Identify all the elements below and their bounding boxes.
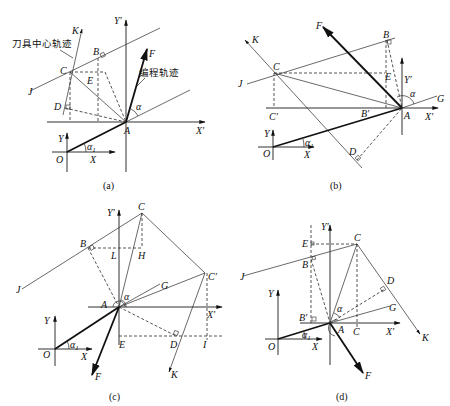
dash-ea xyxy=(105,72,126,122)
right-angle-d xyxy=(380,286,386,292)
label-x-prime: X′ xyxy=(195,125,205,136)
right-angle-e xyxy=(311,242,314,245)
right-angle-b-prime xyxy=(312,317,316,321)
label-c: C xyxy=(60,65,67,76)
segment-ac xyxy=(330,244,357,323)
label-f: F xyxy=(364,370,372,381)
label-d: D xyxy=(386,275,395,286)
label-x-prime: X′ xyxy=(424,111,434,122)
alpha1-arc xyxy=(84,143,86,152)
dash-ba xyxy=(311,259,330,323)
line-k xyxy=(169,273,205,372)
figure-a: K C B E D J F α A X′ Y′ Y O X α1 刀具中心轨迹 … xyxy=(12,15,205,192)
label-b: B xyxy=(383,29,389,40)
label-k: K xyxy=(421,332,430,343)
label-y-prime: Y′ xyxy=(107,207,116,218)
label-f: F xyxy=(148,48,156,59)
label-j: J xyxy=(16,284,21,295)
caption-a: (a) xyxy=(103,180,114,192)
segment-ca xyxy=(274,73,402,108)
label-alpha1: α1 xyxy=(302,329,311,342)
label-o: O xyxy=(43,349,50,360)
label-alpha1: α1 xyxy=(70,339,79,352)
label-o: O xyxy=(263,148,270,159)
figure-c: C Y′ B L H C′ G J α A X′ Y E D I O X α1 … xyxy=(16,201,222,403)
label-f: F xyxy=(315,20,323,31)
label-j: J xyxy=(28,86,33,97)
label-i: I xyxy=(202,339,207,350)
label-d: D xyxy=(169,339,178,350)
vector-f xyxy=(92,307,119,375)
segment-oa xyxy=(67,122,126,152)
label-y: Y xyxy=(44,315,51,326)
figure-d: Y′ E C B J D Y α G B′ A C X′ K O X α1 F … xyxy=(240,221,430,403)
label-b-prime: B′ xyxy=(361,108,370,119)
line-ag xyxy=(402,96,437,108)
label-e: E xyxy=(301,238,308,249)
label-f: F xyxy=(94,371,102,382)
alpha1-arc xyxy=(67,341,69,349)
label-c: C xyxy=(354,232,361,243)
caption-c: (c) xyxy=(109,391,120,403)
line-jc xyxy=(22,213,142,289)
label-b: B xyxy=(302,259,308,270)
caption-b: (b) xyxy=(330,180,342,192)
label-e: E xyxy=(118,339,125,350)
label-c: C xyxy=(273,61,280,72)
label-d: D xyxy=(348,146,357,157)
annotation-tool-center-path: 刀具中心轨迹 xyxy=(12,38,72,49)
label-k: K xyxy=(170,369,179,380)
cutter-compensation-diagram: K C B E D J F α A X′ Y′ Y O X α1 刀具中心轨迹 … xyxy=(0,0,450,406)
right-angle-b xyxy=(312,256,316,260)
annotation-program-path: 编程轨迹 xyxy=(139,67,179,78)
figure-b: F K B C E J Y′ α G C′ B′ A X′ Y O X α1 D… xyxy=(238,20,444,192)
right-angle-d xyxy=(173,330,178,335)
label-alpha: α xyxy=(136,101,142,112)
label-e: E xyxy=(86,75,93,86)
label-c-lower: C xyxy=(353,326,360,337)
label-h: H xyxy=(137,250,146,261)
label-alpha: α xyxy=(337,303,343,314)
label-k: K xyxy=(71,25,80,36)
label-j: J xyxy=(238,78,243,89)
label-c-prime: C′ xyxy=(208,271,218,282)
label-alpha: α xyxy=(124,291,130,302)
alpha1-arc xyxy=(303,139,304,147)
label-y: Y xyxy=(268,288,275,299)
caption-d: (d) xyxy=(336,391,348,403)
leader-tool-path xyxy=(60,50,73,58)
label-j: J xyxy=(240,271,245,282)
dash-da xyxy=(65,108,126,122)
label-k: K xyxy=(251,34,260,45)
label-o: O xyxy=(268,341,275,352)
label-c-prime: C′ xyxy=(269,111,279,122)
line-k xyxy=(357,244,420,334)
label-g: G xyxy=(389,302,396,313)
label-y: Y xyxy=(264,128,271,139)
label-a: A xyxy=(337,324,345,335)
label-x-prime: X′ xyxy=(206,309,216,320)
line-jc xyxy=(243,244,357,276)
label-b: B xyxy=(80,238,86,249)
label-y-prime: Y′ xyxy=(114,15,123,26)
segment-cc-prime xyxy=(142,213,205,273)
label-x: X xyxy=(89,154,97,165)
label-x: X xyxy=(80,351,88,362)
label-d: D xyxy=(53,101,62,112)
label-y: Y xyxy=(58,133,65,144)
label-a: A xyxy=(403,110,411,121)
label-b-prime: B′ xyxy=(299,312,308,323)
label-x: X xyxy=(303,149,311,160)
dash-ad xyxy=(119,307,176,336)
label-o: O xyxy=(56,154,63,165)
label-y-prime: Y′ xyxy=(404,74,413,85)
label-l: L xyxy=(110,250,117,261)
label-g: G xyxy=(437,93,444,104)
label-e: E xyxy=(384,71,391,82)
label-c: C xyxy=(138,201,145,212)
label-a: A xyxy=(100,299,108,310)
label-g: G xyxy=(161,280,168,291)
label-b: B xyxy=(93,46,99,57)
label-a: A xyxy=(123,125,131,136)
segment-oa xyxy=(55,307,119,349)
